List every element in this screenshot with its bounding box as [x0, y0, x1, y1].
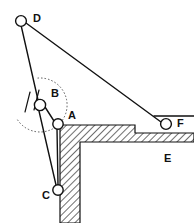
joint-pin-a [53, 119, 63, 129]
label-c: C [42, 189, 50, 201]
ground-hatched-body [60, 125, 194, 223]
diagram-canvas: D B A C F E [0, 0, 194, 223]
label-b: B [51, 87, 59, 99]
member-b-a [45, 107, 54, 121]
label-a: A [68, 109, 76, 121]
joint-pin-b [34, 99, 45, 110]
joint-pin-d [16, 16, 27, 27]
cable-d-to-f [26, 23, 161, 122]
mechanism-diagram: D B A C F E [0, 0, 194, 223]
support-tick-left [25, 92, 30, 112]
label-f: F [177, 117, 184, 129]
joint-pin-c [53, 185, 63, 195]
label-d: D [33, 12, 41, 24]
member-a-c [57, 129, 58, 185]
label-e-ground: E [164, 152, 171, 164]
pulley-f [161, 119, 172, 130]
member-d-b [21, 25, 38, 100]
